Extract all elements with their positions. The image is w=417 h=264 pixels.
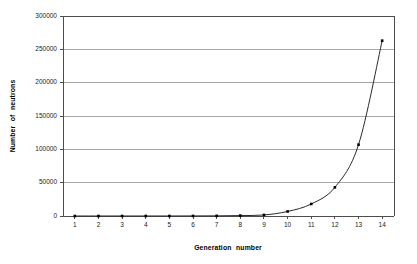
x-tick-label: 11	[308, 221, 315, 228]
data-point-marker	[144, 215, 147, 218]
data-point-marker	[97, 215, 100, 218]
x-tick-label: 3	[120, 221, 124, 228]
series-group	[74, 39, 384, 217]
data-point-marker	[310, 203, 313, 206]
data-point-marker	[381, 39, 384, 42]
y-tick-label: 200000	[35, 78, 57, 85]
data-point-marker	[168, 215, 171, 218]
gridlines-group	[63, 16, 394, 183]
y-tick-labels-group: 050000100000150000200000250000300000	[35, 12, 63, 219]
x-tick-label: 1	[73, 221, 77, 228]
data-point-marker	[121, 215, 124, 218]
x-tick-label: 2	[97, 221, 101, 228]
y-tick-label: 100000	[35, 145, 57, 152]
x-tick-label: 10	[284, 221, 292, 228]
y-tick-label: 250000	[35, 45, 57, 52]
x-tick-label: 13	[355, 221, 363, 228]
series-line	[75, 41, 382, 216]
x-tick-labels-group: 1234567891011121314	[73, 221, 386, 228]
neutron-growth-chart: 050000100000150000200000250000300000 123…	[0, 0, 417, 264]
data-point-marker	[239, 214, 242, 217]
data-point-marker	[286, 210, 289, 213]
x-tick-label: 4	[144, 221, 148, 228]
data-point-marker	[215, 215, 218, 218]
x-tick-label: 6	[191, 221, 195, 228]
chart-canvas: 050000100000150000200000250000300000 123…	[0, 0, 417, 264]
data-point-marker	[192, 215, 195, 218]
x-tick-label: 8	[239, 221, 243, 228]
y-tick-label: 300000	[35, 12, 57, 19]
y-tick-label: 150000	[35, 112, 57, 119]
data-point-marker	[263, 214, 266, 217]
y-axis-title: Number of neutrons	[9, 80, 16, 153]
data-point-marker	[357, 143, 360, 146]
data-point-marker	[74, 215, 77, 218]
data-point-marker	[334, 186, 337, 189]
x-tick-label: 5	[168, 221, 172, 228]
x-tick-label: 14	[379, 221, 387, 228]
x-tick-label: 12	[331, 221, 339, 228]
y-tick-label: 0	[53, 212, 57, 219]
x-tick-label: 9	[262, 221, 266, 228]
y-tick-label: 50000	[39, 178, 57, 185]
x-axis-title: Generation number	[194, 244, 262, 251]
x-tick-label: 7	[215, 221, 219, 228]
